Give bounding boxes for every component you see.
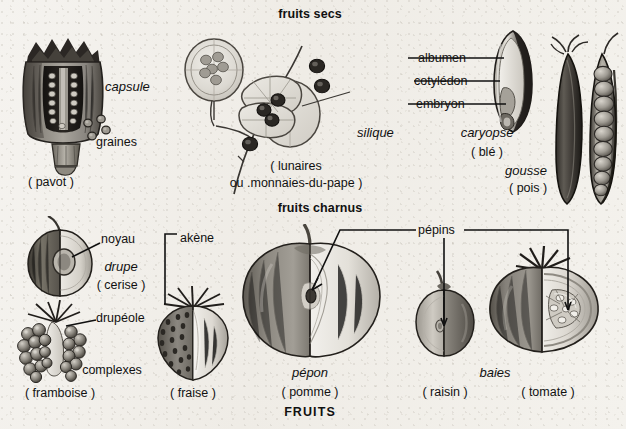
strawberry-illustration (148, 286, 238, 382)
apple-illustration (238, 224, 386, 360)
section-heading-dry-fruits: fruits secs (278, 8, 342, 21)
label-pepins: pépins (418, 224, 455, 237)
label-raisin-species: ( raisin ) (422, 386, 467, 399)
wheat-caryopsis-illustration (487, 28, 539, 136)
label-pepon: pépon (292, 366, 328, 380)
honesty-silique-illustration (182, 28, 357, 200)
label-tomate-species: ( tomate ) (521, 386, 575, 399)
label-ble-species: ( blé ) (471, 146, 503, 159)
label-silique: silique (357, 126, 394, 140)
label-fraise-species: ( fraise ) (170, 387, 216, 400)
label-embryon: embryon (416, 98, 465, 111)
tomato-illustration (486, 246, 606, 358)
label-capsule: capsule (105, 80, 150, 94)
label-gousse: gousse (505, 164, 547, 178)
label-noyau: noyau (101, 233, 135, 246)
section-heading-fleshy-fruits: fruits charnus (278, 202, 363, 215)
label-lunaires-line2: ou .monnaies-du-pape ) (230, 177, 363, 190)
label-framboise-species: ( framboise ) (25, 387, 95, 400)
label-drupe: drupe (104, 260, 137, 274)
pea-pod-illustration (548, 30, 626, 210)
label-baies: baies (479, 366, 510, 380)
botanical-plate-fruits: fruits secs fruits charnus FRUITS (0, 0, 626, 429)
label-cerise-species: ( cerise ) (97, 279, 146, 292)
poppy-capsule-illustration (14, 26, 118, 176)
label-pomme-species: ( pomme ) (282, 386, 339, 399)
label-complexes: complexes (82, 364, 142, 377)
label-pavot-species: ( pavot ) (28, 176, 74, 189)
cherry-drupe-illustration (18, 216, 102, 300)
label-lunaires-line1: ( lunaires (270, 160, 321, 173)
plate-title: FRUITS (284, 406, 336, 419)
label-graines: graines (96, 136, 137, 149)
label-drupeole: drupéole (96, 312, 145, 325)
label-albumen: albumen (418, 52, 466, 65)
label-akene: akène (180, 232, 214, 245)
label-caryopse: caryopse (461, 126, 514, 140)
label-pois-species: ( pois ) (509, 182, 547, 195)
grape-illustration (410, 270, 482, 358)
label-cotyledon: cotylédon (414, 75, 468, 88)
